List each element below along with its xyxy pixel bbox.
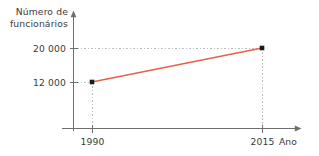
y-axis-title-line-2: funcionários (10, 18, 68, 29)
y-tick-label-12000: 12 000 (33, 77, 66, 88)
tick-marks (70, 49, 263, 133)
line-chart-figure: Número de funcionários 20 000 12 000 199… (0, 0, 319, 156)
gridlines (74, 49, 263, 129)
right-arrow-icon (295, 126, 302, 132)
x-tick-label-1990: 1990 (81, 136, 105, 147)
x-tick-label-2015: 2015 (251, 136, 275, 147)
x-axis-title: Ano (279, 136, 297, 147)
data-point-marker-2015 (260, 46, 265, 51)
data-point-marker-1990 (90, 80, 95, 85)
y-tick-label-20000: 20 000 (33, 43, 66, 54)
up-arrow-icon (71, 11, 77, 18)
y-axis-title-line-1: Número de (16, 6, 68, 17)
series-line (92, 48, 262, 82)
chart-canvas: Número de funcionários 20 000 12 000 199… (0, 0, 319, 156)
axes (62, 11, 302, 132)
data-series-funcionarios (90, 46, 265, 85)
